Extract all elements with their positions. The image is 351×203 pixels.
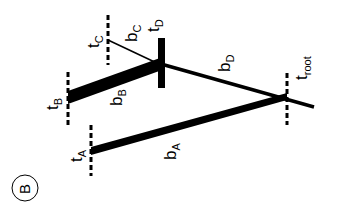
svg-text:tA: tA — [67, 149, 88, 162]
label-b-d: bD — [215, 55, 236, 72]
label-t-a: tA — [67, 149, 88, 162]
svg-text:bB: bB — [107, 89, 128, 106]
svg-text:bA: bA — [161, 143, 182, 160]
label-t-d: tD — [144, 19, 165, 32]
svg-text:bD: bD — [215, 55, 236, 72]
label-b-b: bB — [107, 89, 128, 106]
label-b-a: bA — [161, 143, 182, 160]
svg-text:tB: tB — [43, 98, 64, 110]
phylogenetic-tree-diagram: tC bC tD tB bB bD troot tA bA B — [0, 0, 351, 203]
svg-text:tD: tD — [144, 19, 165, 32]
svg-text:troot: troot — [292, 56, 313, 80]
label-t-b: tB — [43, 98, 64, 110]
svg-text:bC: bC — [122, 25, 143, 42]
label-t-root: troot — [292, 56, 313, 80]
label-t-c: tC — [84, 35, 105, 48]
panel-label: B — [16, 184, 33, 194]
branch-d — [161, 64, 314, 107]
svg-text:tC: tC — [84, 35, 105, 48]
label-b-c: bC — [122, 25, 143, 42]
svg-text:B: B — [16, 184, 33, 194]
